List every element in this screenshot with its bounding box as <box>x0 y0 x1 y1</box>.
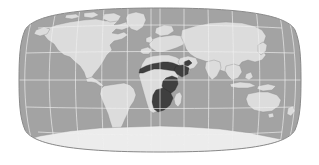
globe <box>0 0 319 165</box>
map-canvas <box>0 0 319 165</box>
land-tasmania <box>268 113 274 118</box>
world-distribution-map: World distribution map <box>0 0 319 165</box>
